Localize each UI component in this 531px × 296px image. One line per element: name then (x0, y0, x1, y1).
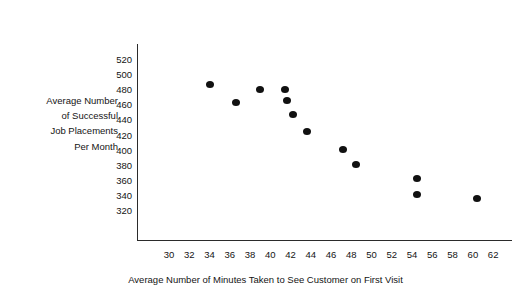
x-tick-label: 60 (463, 249, 483, 261)
y-tick-label: 420 (104, 131, 132, 141)
y-tick-label: 320 (104, 206, 132, 216)
data-point (413, 191, 421, 198)
x-tick-label: 52 (382, 249, 402, 261)
data-point (303, 128, 311, 135)
y-tick-label: 500 (104, 70, 132, 80)
data-point (413, 175, 421, 182)
y-axis-title-line-2: of Successful (12, 108, 118, 123)
y-axis-line (137, 44, 138, 241)
y-tick-label: 460 (104, 100, 132, 110)
y-axis-title-line-1: Average Number (12, 93, 118, 108)
data-point (281, 86, 289, 93)
x-tick-label: 46 (321, 249, 341, 261)
x-tick-label: 34 (200, 249, 220, 261)
x-tick-label: 54 (402, 249, 422, 261)
x-tick-label: 44 (301, 249, 321, 261)
y-tick-label: 520 (104, 55, 132, 65)
y-tick-label: 400 (104, 146, 132, 156)
x-tick-label: 32 (179, 249, 199, 261)
x-tick-label: 38 (240, 249, 260, 261)
x-tick-label: 36 (220, 249, 240, 261)
x-axis-title: Average Number of Minutes Taken to See C… (0, 274, 531, 285)
y-axis-title-line-3: Job Placements (12, 123, 118, 138)
data-point (232, 99, 240, 106)
x-tick-label: 58 (443, 249, 463, 261)
data-point (473, 195, 481, 202)
x-axis-tick-labels: 3032343638404244464850525456586062 (0, 249, 531, 263)
data-point (339, 146, 347, 153)
y-axis-title: Average Number of Successful Job Placeme… (12, 93, 118, 154)
x-tick-label: 30 (159, 249, 179, 261)
x-tick-label: 50 (362, 249, 382, 261)
data-point (206, 81, 214, 88)
data-point (289, 111, 297, 118)
y-tick-label: 380 (104, 161, 132, 171)
x-tick-label: 40 (260, 249, 280, 261)
x-tick-label: 62 (483, 249, 503, 261)
data-point (256, 86, 264, 93)
y-tick-label: 440 (104, 115, 132, 125)
y-axis-tick-labels: 520500480460440420400380360340320 (104, 45, 132, 225)
x-tick-label: 48 (341, 249, 361, 261)
scatter-chart: Average Number of Successful Job Placeme… (0, 0, 531, 296)
data-point (283, 97, 291, 104)
y-tick-label: 340 (104, 191, 132, 201)
x-axis-line (137, 240, 512, 241)
x-tick-label: 42 (281, 249, 301, 261)
x-tick-label: 56 (422, 249, 442, 261)
y-axis-title-line-4: Per Month (12, 139, 118, 154)
y-tick-label: 360 (104, 176, 132, 186)
y-tick-label: 480 (104, 85, 132, 95)
data-point (352, 161, 360, 168)
